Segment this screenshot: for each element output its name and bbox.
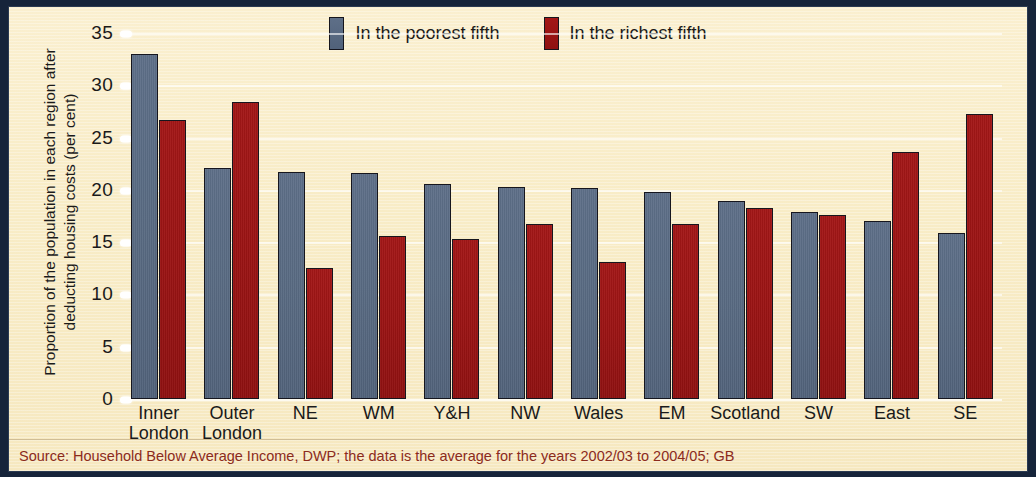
bar-richest-fifth[interactable]	[819, 215, 846, 399]
bar-richest-fifth[interactable]	[526, 224, 553, 399]
y-axis-tick-label: 15	[91, 231, 113, 253]
y-axis-tick-labels: 35302520151050	[69, 33, 113, 399]
bar-richest-fifth[interactable]	[306, 268, 333, 399]
bar-richest-fifth[interactable]	[892, 152, 919, 399]
bar-poorest-fifth[interactable]	[644, 192, 671, 399]
bar-poorest-fifth[interactable]	[351, 173, 378, 399]
bar-richest-fifth[interactable]	[452, 239, 479, 399]
bar-poorest-fifth[interactable]	[938, 233, 965, 399]
plot-area	[122, 33, 1002, 399]
y-axis-tick-label: 35	[91, 22, 113, 44]
footer-divider	[9, 439, 1027, 440]
bar-group	[635, 33, 708, 399]
x-axis-tick-label: WM	[342, 403, 415, 443]
bar-poorest-fifth[interactable]	[864, 221, 891, 399]
x-axis-tick-label: Wales	[562, 403, 635, 443]
bar-group	[855, 33, 928, 399]
x-axis-tick-label: NE	[269, 403, 342, 443]
x-axis-tick-labels: Inner LondonOuter LondonNEWMY&HNWWalesEM…	[122, 403, 1002, 443]
x-axis-tick-label: SE	[929, 403, 1002, 443]
y-axis-tick-label: 10	[91, 283, 113, 305]
source-note: Source: Household Below Average Income, …	[19, 448, 735, 464]
bar-group	[269, 33, 342, 399]
bar-richest-fifth[interactable]	[966, 114, 993, 399]
bar-group	[489, 33, 562, 399]
x-axis-tick-label: East	[855, 403, 928, 443]
chart-figure: In the poorest fifth In the richest fift…	[0, 0, 1036, 477]
gridline	[122, 399, 1002, 401]
x-axis-tick-label: NW	[489, 403, 562, 443]
bar-richest-fifth[interactable]	[379, 236, 406, 399]
bar-richest-fifth[interactable]	[672, 224, 699, 399]
bar-group	[929, 33, 1002, 399]
bar-group	[782, 33, 855, 399]
bar-poorest-fifth[interactable]	[498, 187, 525, 399]
bar-richest-fifth[interactable]	[232, 102, 259, 399]
y-axis-tick-label: 30	[91, 74, 113, 96]
bar-group	[415, 33, 488, 399]
x-axis-tick-label: Outer London	[195, 403, 268, 443]
bar-richest-fifth[interactable]	[159, 120, 186, 399]
bar-group	[562, 33, 635, 399]
bar-poorest-fifth[interactable]	[204, 168, 231, 399]
x-axis-tick-label: EM	[635, 403, 708, 443]
bar-poorest-fifth[interactable]	[278, 172, 305, 399]
bar-poorest-fifth[interactable]	[791, 212, 818, 399]
bar-group	[195, 33, 268, 399]
y-axis-tick-label: 5	[102, 336, 113, 358]
y-axis-tick-label: 20	[91, 179, 113, 201]
x-axis-tick-label: Y&H	[415, 403, 488, 443]
bar-richest-fifth[interactable]	[746, 208, 773, 399]
bar-richest-fifth[interactable]	[599, 262, 626, 399]
y-axis-tick-label: 0	[102, 388, 113, 410]
x-axis-tick-label: Inner London	[122, 403, 195, 443]
bar-group	[122, 33, 195, 399]
bar-poorest-fifth[interactable]	[718, 201, 745, 399]
bar-poorest-fifth[interactable]	[424, 184, 451, 399]
bar-groups	[122, 33, 1002, 399]
bar-group	[709, 33, 782, 399]
y-axis-tick-label: 25	[91, 127, 113, 149]
x-axis-tick-label: Scotland	[709, 403, 782, 443]
bar-poorest-fifth[interactable]	[131, 54, 158, 399]
bar-poorest-fifth[interactable]	[571, 188, 598, 399]
x-axis-tick-label: SW	[782, 403, 855, 443]
chart-panel: In the poorest fifth In the richest fift…	[8, 6, 1028, 472]
bar-group	[342, 33, 415, 399]
